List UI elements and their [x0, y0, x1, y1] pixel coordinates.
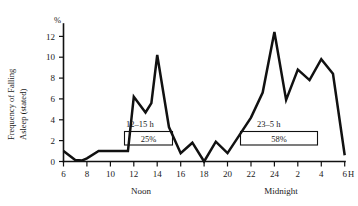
x-tick-label-18: 18: [200, 169, 210, 179]
x-tick-label-22: 22: [247, 169, 256, 179]
x-tick-label-20: 20: [223, 169, 233, 179]
y-axis-title-line2: Asleep (stated): [18, 89, 28, 140]
y-tick-label-10: 10: [46, 52, 56, 62]
y-tick-label-8: 8: [51, 73, 56, 83]
y-axis-unit: %: [54, 15, 61, 25]
y-tick-label-0: 0: [51, 157, 56, 167]
x-tick-label-6a: 6: [61, 169, 66, 179]
x-tick-label-24: 24: [270, 169, 280, 179]
y-axis-tick-labels: 0 2 4 6 8 10 12: [46, 32, 56, 167]
sleep-onset-frequency-chart: Frequency of Falling Asleep (stated) % 0…: [0, 0, 358, 206]
x-tick-label-16: 16: [176, 169, 186, 179]
x-tick-label-12: 12: [129, 169, 138, 179]
annotation-2-range-label: 23–5 h: [257, 119, 281, 129]
period-marker-midnight: Midnight: [264, 186, 298, 196]
x-axis-tick-labels: 6 8 10 12 14 16 18 20 22 24 2 4 6: [61, 169, 347, 179]
y-tick-label-2: 2: [51, 136, 56, 146]
x-axis-unit: H: [348, 169, 354, 179]
y-tick-label-4: 4: [51, 115, 56, 125]
y-axis-title-line1: Frequency of Falling: [6, 68, 16, 140]
x-tick-label-14: 14: [153, 169, 163, 179]
annotation-night-sleep: 23–5 h 58%: [241, 119, 318, 145]
chart-svg: Frequency of Falling Asleep (stated) % 0…: [0, 0, 358, 206]
annotation-1-value: 25%: [141, 134, 157, 144]
x-tick-label-2: 2: [296, 169, 301, 179]
y-tick-label-6: 6: [51, 94, 56, 104]
y-tick-label-12: 12: [46, 32, 55, 42]
x-tick-label-10: 10: [106, 169, 116, 179]
y-axis-title: Frequency of Falling Asleep (stated): [6, 68, 28, 140]
x-tick-label-8: 8: [85, 169, 90, 179]
period-marker-noon: Noon: [131, 186, 151, 196]
x-tick-label-4: 4: [319, 169, 324, 179]
x-tick-label-6b: 6: [342, 169, 347, 179]
annotation-2-value: 58%: [271, 134, 287, 144]
